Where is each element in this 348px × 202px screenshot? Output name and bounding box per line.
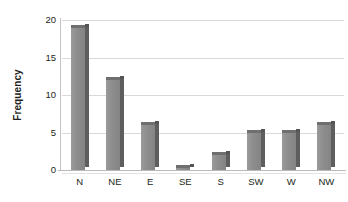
bar-nw[interactable]	[317, 122, 335, 170]
y-tick-label: 20	[32, 15, 56, 25]
bar-se[interactable]	[176, 165, 194, 170]
bar-w[interactable]	[282, 130, 300, 171]
x-tick-label-s: S	[201, 176, 241, 188]
x-tick-label-sw: SW	[236, 176, 276, 188]
x-tick-label-e: E	[130, 176, 170, 188]
bar-ne[interactable]	[106, 77, 124, 170]
x-tick-label-w: W	[271, 176, 311, 188]
y-tick-label-text: 15	[32, 53, 56, 63]
bar-top-face	[176, 165, 190, 168]
axis-baseline	[58, 170, 346, 171]
y-tick-label: 0	[32, 165, 56, 175]
x-tick-label-n: N	[60, 176, 100, 188]
y-tick-label: 10	[32, 90, 56, 100]
y-tick-label-text: 20	[32, 15, 56, 25]
bar-front-face	[247, 133, 261, 171]
bar-front-face	[317, 125, 331, 170]
bar-side-face	[226, 152, 230, 167]
bar-front-face	[282, 133, 296, 171]
bar-front-face	[176, 168, 190, 170]
y-tick-label: 5	[32, 128, 56, 138]
x-tick-label-nw: NW	[306, 176, 346, 188]
bar-n[interactable]	[71, 25, 89, 171]
bar-side-face	[155, 122, 159, 167]
bar-side-face	[296, 130, 300, 168]
bar-top-face	[141, 122, 155, 125]
bar-top-cap	[331, 121, 335, 124]
bar-top-face	[282, 130, 296, 133]
y-tick-label-text: 10	[32, 90, 56, 100]
bar-top-cap	[85, 24, 89, 27]
x-tick-label-ne: NE	[95, 176, 135, 188]
bar-top-cap	[296, 129, 300, 132]
plot-area: 05101520 NNEESESSWWNW	[0, 0, 348, 202]
bar-e[interactable]	[141, 122, 159, 170]
bar-side-face	[120, 77, 124, 167]
bar-front-face	[71, 28, 85, 171]
y-tick-label-text: 0	[32, 165, 56, 175]
floor-edge	[62, 173, 346, 174]
bar-top-face	[247, 130, 261, 133]
bar-side-face	[331, 122, 335, 167]
bar-top-cap	[226, 151, 230, 154]
bar-s[interactable]	[212, 152, 230, 170]
bar-front-face	[212, 155, 226, 170]
bar-top-face	[317, 122, 331, 125]
gridline	[62, 133, 344, 134]
bar-top-face	[71, 25, 85, 28]
y-tick-label-text: 5	[32, 128, 56, 138]
y-tick-label: 15	[32, 53, 56, 63]
bar-top-cap	[190, 164, 194, 167]
bar-top-cap	[120, 76, 124, 79]
bar-side-face	[85, 25, 89, 168]
bar-front-face	[106, 80, 120, 170]
bar-top-cap	[261, 129, 265, 132]
bar-top-face	[106, 77, 120, 80]
y-axis-line	[60, 18, 61, 171]
bar-sw[interactable]	[247, 130, 265, 171]
x-tick-label-se: SE	[165, 176, 205, 188]
bar-chart: Frequency 05101520 NNEESESSWWNW	[0, 0, 348, 202]
bar-top-cap	[155, 121, 159, 124]
gridline	[62, 20, 344, 21]
bar-side-face	[261, 130, 265, 168]
bar-top-face	[212, 152, 226, 155]
bar-front-face	[141, 125, 155, 170]
gridline	[62, 58, 344, 59]
gridline	[62, 95, 344, 96]
